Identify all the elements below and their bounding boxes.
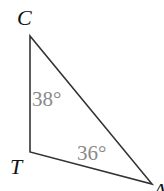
angle-label-a: 36° <box>77 141 106 165</box>
angle-label-c: 38° <box>32 87 61 111</box>
triangle-svg: C T A 38° 36° <box>0 0 164 191</box>
vertex-label-t: T <box>10 154 24 179</box>
vertex-label-c: C <box>17 5 32 30</box>
triangle-diagram: C T A 38° 36° <box>0 0 164 191</box>
vertex-label-a: A <box>151 178 164 191</box>
